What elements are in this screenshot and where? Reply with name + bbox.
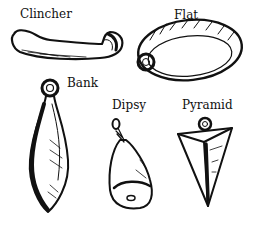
sinker-illustration: Clincher Flat Bank Dipsy Pyramid: [0, 0, 256, 225]
clincher-sinker-icon: [12, 30, 122, 59]
pyramid-sinker-icon: [178, 118, 232, 206]
dipsy-sinker-icon: [109, 119, 151, 208]
sinker-drawings: [0, 0, 256, 225]
flat-sinker-icon: [135, 15, 245, 86]
bank-sinker-icon: [30, 80, 68, 212]
